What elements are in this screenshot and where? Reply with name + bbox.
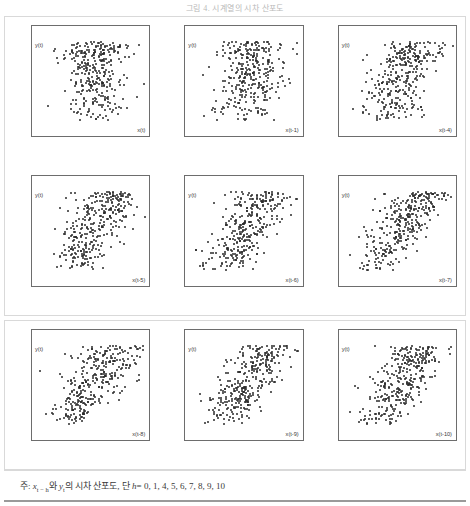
scatter-point [97, 45, 99, 47]
scatter-point [237, 118, 239, 120]
scatter-point [89, 251, 91, 253]
scatter-point [115, 197, 117, 199]
scatter-point [401, 390, 403, 392]
y-axis-label: y(t) [188, 192, 196, 198]
scatter-point [76, 91, 78, 93]
scatter-point [229, 238, 231, 240]
scatter-point [241, 422, 243, 424]
plot-frame: 120100806040200-20-1.5-1.0-0.50.00.51.01… [338, 329, 457, 441]
scatter-point [98, 55, 100, 57]
y-axis-tick-mark [338, 408, 339, 409]
scatter-point [399, 377, 401, 379]
scatter-point [257, 87, 259, 89]
scatter-point [379, 237, 381, 239]
scatter-point [382, 259, 384, 261]
scatter-point [83, 385, 85, 387]
scatter-point [237, 196, 239, 198]
scatter-point [266, 112, 268, 114]
scatter-point [425, 196, 427, 198]
scatter-point [292, 48, 294, 50]
scatter-point [63, 244, 65, 246]
scatter-point [80, 81, 82, 83]
scatter-point [400, 402, 402, 404]
scatter-point [231, 85, 233, 87]
scatter-point [105, 69, 107, 71]
scatter-point [94, 100, 96, 102]
scatter-point [117, 204, 119, 206]
scatter-point [220, 265, 222, 267]
scatter-point [106, 97, 108, 99]
scatter-point [217, 239, 219, 241]
scatter-point [103, 53, 105, 55]
scatter-point [414, 56, 416, 58]
scatter-point [249, 345, 251, 347]
scatter-point [405, 394, 407, 396]
scatter-point [388, 81, 390, 83]
scatter-point [234, 383, 236, 385]
scatter-point [403, 230, 405, 232]
scatter-point [102, 43, 104, 45]
scatter-point [100, 369, 102, 371]
scatter-point [248, 235, 250, 237]
scatter-point [257, 61, 259, 63]
scatter-point [228, 42, 230, 44]
scatter-point [415, 86, 417, 88]
scatter-point [123, 243, 125, 245]
scatter-point [73, 239, 75, 241]
scatter-point [422, 347, 424, 349]
scatter-plot-lag-4: 120100806040200-20-1.5-1.0-0.50.00.51.01… [312, 17, 465, 167]
scatter-point [83, 105, 85, 107]
scatter-point [65, 50, 67, 52]
scatter-point [266, 85, 268, 87]
scatter-point [390, 346, 392, 348]
scatter-point [107, 201, 109, 203]
scatter-point [238, 266, 240, 268]
scatter-point [228, 57, 230, 59]
scatter-point [388, 66, 390, 68]
scatter-point [449, 353, 451, 355]
scatter-point [249, 69, 251, 71]
scatter-point [260, 363, 262, 365]
scatter-point [270, 46, 272, 48]
scatter-point [290, 366, 292, 368]
scatter-point [107, 199, 109, 201]
scatter-point [245, 228, 247, 230]
y-axis-tick-mark [184, 176, 185, 177]
scatter-point [361, 90, 363, 92]
scatter-point [394, 231, 396, 233]
scatter-point [394, 359, 396, 361]
scatter-point [241, 367, 243, 369]
scatter-point [388, 400, 390, 402]
scatter-point [249, 59, 251, 61]
x-axis-tick-mark [397, 136, 398, 137]
scatter-point [82, 248, 84, 250]
scatter-point [56, 266, 58, 268]
scatter-point [108, 71, 110, 73]
y-axis-tick-mark [184, 392, 185, 393]
scatter-point [381, 101, 383, 103]
scatter-point [269, 369, 271, 371]
scatter-point [245, 45, 247, 47]
scatter-point [404, 64, 406, 66]
scatter-point [86, 43, 88, 45]
scatter-point [267, 61, 269, 63]
scatter-point [269, 66, 271, 68]
scatter-point [265, 361, 267, 363]
scatter-point [429, 210, 431, 212]
scatter-point [432, 347, 434, 349]
scatter-point [232, 230, 234, 232]
scatter-point [402, 370, 404, 372]
scatter-point [411, 229, 413, 231]
scatter-point [412, 81, 414, 83]
x-axis-tick-mark [377, 440, 378, 441]
scatter-point [203, 115, 205, 117]
scatter-point [73, 228, 75, 230]
scatter-point [89, 90, 91, 92]
scatter-point [119, 79, 121, 81]
x-axis-tick-mark [185, 286, 186, 287]
scatter-point [268, 192, 270, 194]
scatter-point [102, 117, 104, 119]
scatter-point [254, 100, 256, 102]
scatter-point [99, 59, 101, 61]
scatter-point [208, 258, 210, 260]
